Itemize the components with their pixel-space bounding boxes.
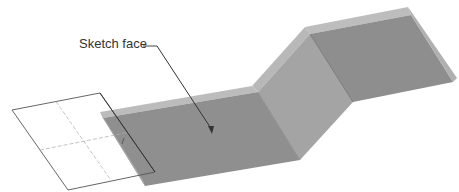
callout-label: Sketch face bbox=[79, 36, 147, 51]
sheet-metal-diagram bbox=[0, 0, 459, 192]
